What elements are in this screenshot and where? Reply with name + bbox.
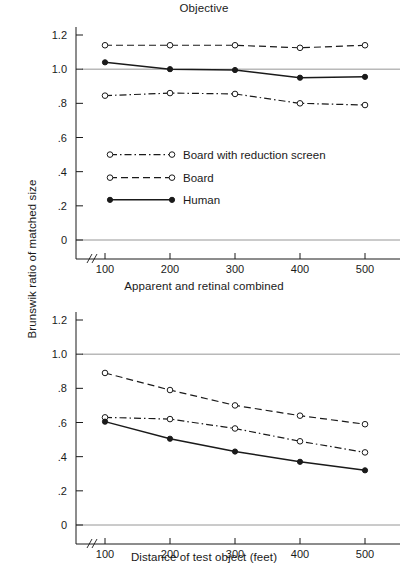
y-tick-label: 1.0 xyxy=(52,348,67,360)
y-tick-label: .2 xyxy=(58,485,67,497)
data-point xyxy=(297,101,303,107)
data-point xyxy=(167,90,173,96)
series-line xyxy=(105,373,365,424)
data-point xyxy=(232,449,237,454)
y-tick-label: .2 xyxy=(58,200,67,212)
data-point xyxy=(297,75,302,80)
legend-marker xyxy=(169,175,175,181)
y-tick-label: .8 xyxy=(58,97,67,109)
y-tick-label: 1.2 xyxy=(52,29,67,41)
data-point xyxy=(232,91,238,97)
legend-label: Human xyxy=(183,194,220,206)
y-tick-label: .4 xyxy=(58,166,67,178)
data-point xyxy=(362,42,368,48)
data-point xyxy=(167,416,173,422)
chart-panel-apparent-retinal: Apparent and retinal combined 0.2.4.6.81… xyxy=(0,285,408,570)
series-board-with-reduction-screen xyxy=(102,90,368,108)
y-tick-label: .8 xyxy=(58,382,67,394)
legend-marker xyxy=(107,175,113,181)
data-point xyxy=(297,45,303,51)
data-point xyxy=(167,42,173,48)
series-board xyxy=(102,370,368,427)
y-tick-label: 1.0 xyxy=(52,63,67,75)
data-point xyxy=(362,74,367,79)
y-tick-label: .6 xyxy=(58,132,67,144)
legend-item: Board xyxy=(107,172,213,184)
data-point xyxy=(297,438,303,444)
legend-marker xyxy=(169,197,174,202)
x-axis-title: Distance of test object (feet) xyxy=(0,551,408,563)
data-point xyxy=(362,421,368,427)
y-tick-label: 0 xyxy=(61,234,67,246)
data-point xyxy=(102,60,107,65)
legend-marker xyxy=(169,152,175,158)
x-tick-label: 100 xyxy=(96,263,114,275)
x-tick-label: 200 xyxy=(161,263,179,275)
x-tick-label: 400 xyxy=(291,263,309,275)
legend-item: Human xyxy=(107,194,220,206)
chart-panel-objective: Objective 0.2.4.6.81.01.2100200300400500… xyxy=(0,0,408,285)
legend-label: Board with reduction screen xyxy=(183,149,326,161)
data-point xyxy=(167,67,172,72)
data-point xyxy=(167,387,173,393)
series-human xyxy=(102,60,367,81)
x-tick-label: 300 xyxy=(226,263,244,275)
x-tick-label: 500 xyxy=(356,263,374,275)
y-tick-label: .4 xyxy=(58,451,67,463)
series-line xyxy=(105,417,365,452)
data-point xyxy=(362,450,368,456)
data-point xyxy=(102,419,107,424)
y-tick-label: 0 xyxy=(61,519,67,531)
figure: Brunswik ratio of matched size Objective… xyxy=(0,0,408,570)
legend-marker xyxy=(107,197,112,202)
data-point xyxy=(232,42,238,48)
data-point xyxy=(362,468,367,473)
legend-item: Board with reduction screen xyxy=(107,149,325,161)
data-point xyxy=(297,413,303,419)
data-point xyxy=(102,93,108,99)
plot-area-objective: 0.2.4.6.81.01.2100200300400500Board with… xyxy=(0,0,408,285)
data-point xyxy=(297,459,302,464)
legend-marker xyxy=(107,152,113,158)
y-tick-label: 1.2 xyxy=(52,314,67,326)
data-point xyxy=(232,426,238,432)
data-point xyxy=(232,403,238,409)
y-tick-label: .6 xyxy=(58,417,67,429)
series-board xyxy=(102,42,368,50)
data-point xyxy=(232,67,237,72)
data-point xyxy=(102,42,108,48)
legend-label: Board xyxy=(183,172,214,184)
data-point xyxy=(167,436,172,441)
plot-area-apparent-retinal: 0.2.4.6.81.01.2100200300400500 xyxy=(0,285,408,570)
data-point xyxy=(102,370,108,376)
data-point xyxy=(362,102,368,108)
